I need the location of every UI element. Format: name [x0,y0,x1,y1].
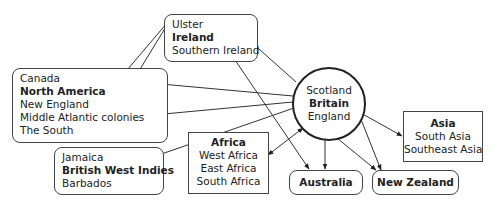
arrow-britain-asia [359,112,402,136]
node-asia: Asia South Asia Southeast Asia [403,111,483,162]
label-british-west-indies: British West Indies [62,164,163,177]
node-north-america: Canada North America New England Middle … [12,68,168,143]
node-africa: Africa West Africa East Africa South Afr… [188,132,269,194]
label-africa: Africa [189,136,268,149]
label-canada: Canada [20,72,167,85]
label-east-africa: East Africa [189,162,268,175]
label-britain: Britain [294,97,364,110]
node-ireland: Ulster Ireland Southern Ireland [164,14,258,62]
label-southeast-asia: Southeast Asia [404,143,482,156]
label-south-asia: South Asia [404,130,482,143]
label-west-africa: West Africa [189,149,268,162]
node-australia: Australia [289,170,363,195]
label-the-south: The South [20,124,167,137]
label-southern-ireland: Southern Ireland [172,44,257,57]
label-england: England [294,110,364,123]
label-australia: Australia [299,176,352,189]
label-new-zealand: New Zealand [377,176,454,189]
label-jamaica: Jamaica [62,151,163,164]
label-north-america: North America [20,85,167,98]
label-ireland: Ireland [172,31,257,44]
arrow-england-new-zealand [337,138,376,170]
label-middle-atlantic: Middle Atlantic colonies [20,111,167,124]
arrow-britain-africa [268,128,303,155]
node-britain-hub: Scotland Britain England [292,67,366,141]
node-british-west-indies: Jamaica British West Indies Barbados [54,147,164,195]
label-south-africa: South Africa [189,175,268,188]
label-scotland: Scotland [294,84,364,97]
label-new-england: New England [20,98,167,111]
label-barbados: Barbados [62,177,163,190]
label-asia: Asia [404,117,482,130]
label-ulster: Ulster [172,18,257,31]
node-new-zealand: New Zealand [372,170,459,195]
